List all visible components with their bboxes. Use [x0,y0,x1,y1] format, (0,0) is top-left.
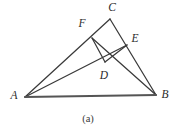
segment-A-E [25,45,127,97]
geometry-figure: A B C D E F (a) [0,0,177,131]
geometry-diagram [0,0,177,131]
vertex-label-A: A [10,90,17,102]
vertex-label-D: D [100,70,108,82]
segment-C-B [110,19,156,95]
vertex-label-B: B [161,89,168,101]
vertex-label-F: F [78,18,85,30]
segment-F-D [92,38,105,62]
segment-A-C [25,19,110,97]
vertex-label-E: E [131,33,138,45]
segment-A-B [25,95,156,97]
figure-caption: (a) [82,114,94,125]
vertex-label-C: C [108,2,116,14]
